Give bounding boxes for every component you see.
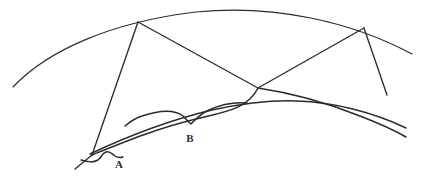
label-b: B [186,132,194,144]
diagram-background [0,0,426,180]
geometric-diagram: A B [0,0,426,180]
label-a: A [115,158,123,170]
diagram-canvas: A B [0,0,426,180]
